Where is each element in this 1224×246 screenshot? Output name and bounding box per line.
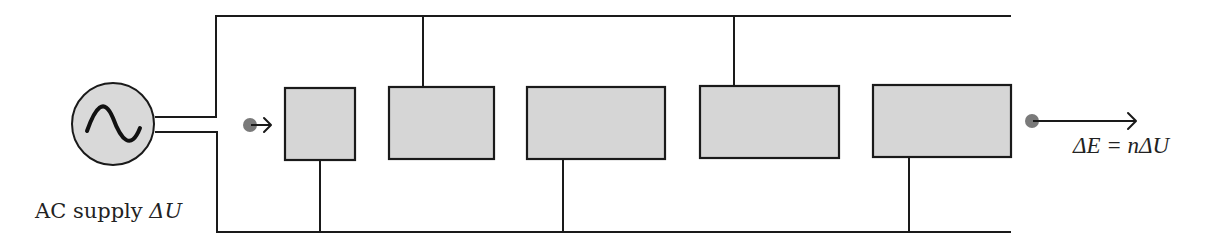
ac-source [72, 83, 154, 165]
ac-supply-text: AC supply [34, 199, 149, 223]
stage-box-3 [527, 87, 665, 159]
ac-supply-label: AC supply ΔU [34, 199, 184, 223]
stage-boxes [285, 85, 1011, 160]
stage-box-5 [873, 85, 1011, 157]
stage-box-1 [285, 88, 355, 160]
stage-box-4 [700, 86, 839, 158]
energy-gain-label: ΔE = nΔU [1072, 133, 1171, 158]
stage-box-2 [389, 87, 494, 159]
output-particle [1025, 113, 1136, 129]
accelerator-circuit-diagram: AC supply ΔU ΔE = nΔU [0, 0, 1224, 246]
input-particle [243, 118, 271, 132]
ac-supply-symbol: ΔU [148, 199, 183, 223]
ac-source-circle [72, 83, 154, 165]
